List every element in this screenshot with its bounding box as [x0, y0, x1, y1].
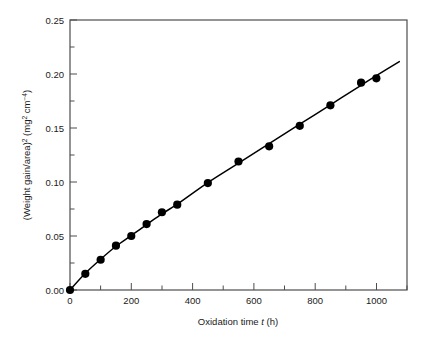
- data-point: [81, 270, 89, 278]
- y-tick-label: 0.20: [46, 69, 65, 80]
- data-point: [326, 101, 334, 109]
- x-tick-label: 1000: [366, 295, 387, 306]
- x-tick-label: 400: [185, 295, 201, 306]
- y-tick-label: 0.25: [46, 15, 65, 26]
- figure-background: [0, 0, 438, 342]
- x-axis-title-prefix: Oxidation time: [198, 316, 261, 327]
- y-tick-label: 0.00: [46, 285, 65, 296]
- y-tick-label: 0.10: [46, 177, 65, 188]
- data-point: [357, 79, 365, 87]
- data-point: [158, 208, 166, 216]
- data-point: [265, 142, 273, 150]
- y-axis-title-part3: cm: [21, 100, 32, 115]
- data-point: [204, 179, 212, 187]
- data-point: [173, 201, 181, 209]
- y-axis-title: (Weight gain/area)2 (mg2 cm−4): [21, 90, 32, 220]
- data-point: [127, 232, 135, 240]
- data-point: [234, 157, 242, 165]
- x-tick-label: 600: [246, 295, 262, 306]
- x-tick-label: 0: [67, 295, 72, 306]
- oxidation-kinetics-chart: 0 200 400 600 800 1000 0.00 0.05 0.10 0.…: [0, 0, 438, 342]
- data-point: [142, 220, 150, 228]
- data-point: [66, 286, 74, 294]
- data-point: [112, 242, 120, 250]
- y-axis-title-part4: ): [21, 90, 32, 93]
- data-point: [372, 74, 380, 82]
- y-tick-label: 0.15: [46, 123, 65, 134]
- x-tick-label: 800: [307, 295, 323, 306]
- x-axis-title: Oxidation time t (h): [198, 316, 278, 327]
- y-axis-title-part1: (Weight gain/area): [21, 142, 32, 220]
- x-axis-title-suffix: (h): [264, 316, 278, 327]
- y-tick-label: 0.05: [46, 231, 65, 242]
- y-axis-title-part2: (mg: [21, 120, 32, 139]
- x-tick-label: 200: [123, 295, 139, 306]
- data-point: [296, 122, 304, 130]
- data-point: [97, 256, 105, 264]
